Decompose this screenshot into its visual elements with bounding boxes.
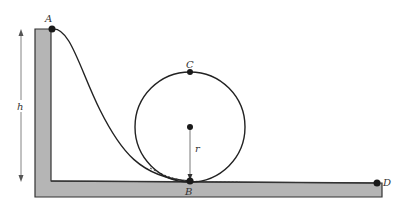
center-point xyxy=(187,124,193,130)
point-a xyxy=(49,26,56,33)
ramp-curve xyxy=(52,29,190,181)
label-b: B xyxy=(184,186,192,197)
point-d xyxy=(374,180,381,187)
label-c: C xyxy=(186,59,194,70)
point-b xyxy=(187,178,194,185)
label-a: A xyxy=(44,13,52,24)
platform xyxy=(35,29,382,197)
radius-label: r xyxy=(195,143,201,154)
height-label: h xyxy=(17,101,23,112)
label-d: D xyxy=(382,177,391,188)
diagram-canvas: h r A C B D xyxy=(0,0,403,207)
